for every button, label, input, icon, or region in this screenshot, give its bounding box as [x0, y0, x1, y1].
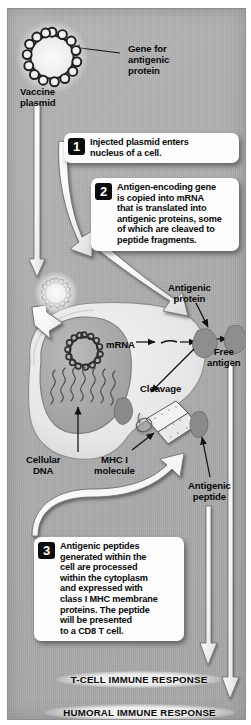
label-vaccine-plasmid: Vaccine plasmid	[20, 87, 56, 109]
step-text: Injected plasmid enters nucleus of a cel…	[90, 137, 189, 158]
step-number-badge: 3	[38, 542, 55, 559]
vaccine-plasmid-icon	[23, 28, 82, 87]
step-text: Antigenic peptides generated within the …	[60, 541, 158, 636]
illustration-panel: Vaccine plasmid Gene for antigenic prote…	[7, 8, 246, 720]
step-number-badge: 2	[95, 183, 112, 200]
label-free-antigen: Free antigen	[207, 347, 240, 369]
label-gene-for-antigenic-protein: Gene for antigenic protein	[128, 44, 169, 76]
callout-step-3: 3 Antigenic peptides generated within th…	[34, 537, 184, 641]
diagram-page: Vaccine plasmid Gene for antigenic prote…	[0, 0, 251, 725]
outcome-humoral-immune-response: HUMORAL IMMUNE RESPONSE	[44, 704, 235, 720]
label-antigenic-peptide: Antigenic peptide	[188, 481, 231, 503]
step-text: Antigen-encoding gene is copied into mRN…	[117, 182, 222, 246]
label-mrna: mRNA	[106, 340, 135, 351]
outcome-t-cell-immune-response: T-CELL IMMUNE RESPONSE	[56, 671, 222, 688]
label-mhc-i-molecule: MHC I molecule	[94, 455, 135, 477]
callout-step-1: 1 Injected plasmid enters nucleus of a c…	[64, 133, 239, 163]
callout-step-2: 2 Antigen-encoding gene is copied into m…	[91, 178, 239, 251]
label-cellular-dna: Cellular DNA	[26, 455, 60, 477]
label-antigenic-protein: Antigenic protein	[168, 283, 211, 305]
step-number-badge: 1	[68, 138, 85, 155]
label-cleavage: Cleavage	[140, 384, 181, 395]
